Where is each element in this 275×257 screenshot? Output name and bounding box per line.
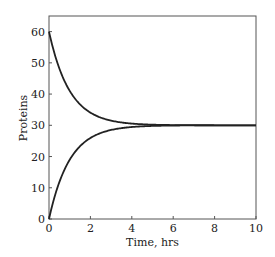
- x-tick-label: 6: [170, 222, 177, 235]
- y-tick-label: 40: [31, 88, 45, 101]
- y-tick-label: 20: [31, 151, 45, 164]
- rise-curve: [49, 125, 256, 219]
- x-tick-label: 2: [87, 222, 94, 235]
- x-tick-label: 0: [46, 222, 53, 235]
- plot-frame: [49, 16, 256, 219]
- x-axis-label: Time, hrs: [126, 236, 179, 249]
- x-tick-label: 8: [211, 222, 218, 235]
- data-series: [49, 32, 256, 219]
- y-tick-label: 0: [38, 213, 45, 226]
- decay-curve: [49, 32, 256, 126]
- line-chart: 0102030405060 0246810 Time, hrs Proteins: [0, 0, 275, 257]
- y-tick-label: 30: [31, 119, 45, 132]
- x-tick-label: 10: [249, 222, 263, 235]
- x-tick-label: 4: [128, 222, 135, 235]
- y-tick-label: 60: [31, 26, 45, 39]
- y-axis-label: Proteins: [17, 94, 30, 141]
- y-tick-label: 10: [31, 182, 45, 195]
- y-tick-label: 50: [31, 57, 45, 70]
